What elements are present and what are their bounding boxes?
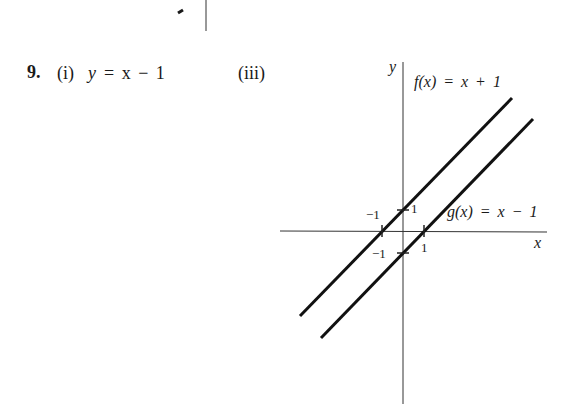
y-axis-label: y xyxy=(389,58,396,76)
tick-label-y-pos1: 1 xyxy=(411,201,418,217)
part-i-label: (i) xyxy=(57,63,74,84)
g-function-label: g(x) = x − 1 xyxy=(447,203,537,221)
part-iii-label: (iii) xyxy=(238,63,265,84)
tick-label-x-neg1: −1 xyxy=(366,207,380,223)
tick-label-x-pos1: 1 xyxy=(421,240,428,256)
part-i-rhs: = x − 1 xyxy=(104,63,165,84)
part-i-lhs: y xyxy=(88,63,96,84)
x-axis xyxy=(280,231,547,232)
tick-label-y-neg1: −1 xyxy=(372,246,386,262)
problem-number: 9. xyxy=(27,62,41,83)
previous-figure-fragment xyxy=(178,10,183,13)
f-function-label: f(x) = x + 1 xyxy=(414,73,501,91)
line-g xyxy=(321,119,533,338)
x-axis-label: x xyxy=(534,234,541,252)
